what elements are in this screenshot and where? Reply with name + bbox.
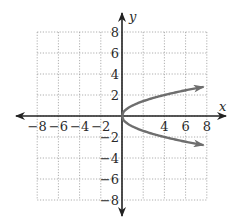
y-tick-label: 4 [111, 67, 119, 82]
x-axis-label: x [219, 99, 227, 114]
x-tick-label: −6 [49, 119, 68, 134]
x-tick-label: −4 [70, 119, 89, 134]
y-tick-label: −2 [100, 130, 119, 145]
x-tick-label: 4 [160, 119, 168, 134]
y-tick-label: −8 [100, 193, 119, 208]
y-tick-label: 2 [111, 88, 119, 103]
y-tick-label: 8 [111, 25, 119, 40]
x-tick-label: 8 [203, 119, 211, 134]
y-tick-label: −6 [100, 172, 119, 187]
graph: xy−8−6−4−24688642−2−4−6−8 [0, 0, 235, 222]
y-axis-label: y [128, 9, 137, 24]
y-tick-label: 6 [111, 46, 119, 61]
x-tick-label: 6 [181, 119, 189, 134]
y-tick-label: −4 [100, 151, 119, 166]
x-tick-label: −8 [28, 119, 47, 134]
curve-upper-branch [122, 87, 204, 116]
